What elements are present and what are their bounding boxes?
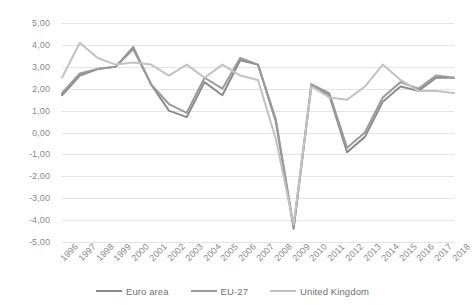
legend-swatch-euro-area (96, 290, 122, 293)
y-axis-tick-label: 0,00 (32, 128, 50, 138)
y-axis-tick-label: -1,00 (29, 149, 50, 159)
y-axis-tick-label: -4,00 (29, 215, 50, 225)
x-axis-tick-label: 2006 (237, 242, 259, 264)
y-axis-tick-label: 3,00 (32, 62, 50, 72)
y-axis-tick-label: -5,00 (29, 237, 50, 247)
legend-item-eu-27: EU-27 (191, 286, 248, 297)
legend-item-united-kingdom: United Kingdom (270, 286, 369, 297)
x-axis-tick-label: 2002 (165, 242, 187, 264)
y-axis-tick-label: 5,00 (32, 18, 50, 28)
plot-area (62, 23, 454, 242)
legend-swatch-eu-27 (191, 290, 217, 293)
y-axis-tick-label: -2,00 (29, 171, 50, 181)
x-axis-tick-label: 2008 (272, 242, 294, 264)
x-axis-tick-label: 2016 (415, 242, 437, 264)
x-axis-tick-label: 2005 (219, 242, 241, 264)
x-axis-tick-label: 2017 (433, 242, 455, 264)
series-line-united-kingdom (62, 43, 454, 225)
x-axis-tick-label: 2011 (326, 242, 347, 263)
y-axis: 5,004,003,002,001,000,00-1,00-2,00-3,00-… (0, 23, 56, 242)
legend-label-united-kingdom: United Kingdom (300, 286, 369, 297)
x-axis-tick-label: 2018 (450, 242, 472, 264)
x-axis-tick-label: 2000 (130, 242, 152, 264)
y-axis-tick-label: -3,00 (29, 193, 50, 203)
x-axis-tick-label: 1996 (58, 242, 80, 264)
x-axis-tick-label: 2009 (290, 242, 312, 264)
x-axis-tick-label: 1998 (94, 242, 116, 264)
y-axis-tick-label: 4,00 (32, 40, 50, 50)
x-axis-tick-label: 2004 (201, 242, 223, 264)
y-axis-tick-label: 1,00 (32, 106, 50, 116)
x-axis-tick-label: 2013 (361, 242, 383, 264)
legend-label-eu-27: EU-27 (221, 286, 248, 297)
legend-swatch-united-kingdom (270, 290, 296, 293)
legend-label-euro-area: Euro area (126, 286, 169, 297)
x-axis-tick-label: 1999 (112, 242, 134, 264)
x-axis-tick-label: 1997 (76, 242, 98, 264)
y-axis-tick-label: 2,00 (32, 84, 50, 94)
x-axis-tick-label: 2015 (397, 242, 419, 264)
series-layer (62, 23, 454, 242)
x-axis-tick-label: 2007 (254, 242, 276, 264)
x-axis-tick-label: 2003 (183, 242, 205, 264)
chart-legend: Euro area EU-27 United Kingdom (0, 281, 465, 301)
x-axis-tick-label: 2014 (379, 242, 401, 264)
x-axis: 1996199719981999200020012002200320042005… (62, 244, 454, 284)
x-axis-tick-label: 2010 (308, 242, 330, 264)
legend-item-euro-area: Euro area (96, 286, 169, 297)
x-axis-tick-label: 2012 (344, 242, 366, 264)
x-axis-tick-label: 2001 (148, 242, 170, 264)
